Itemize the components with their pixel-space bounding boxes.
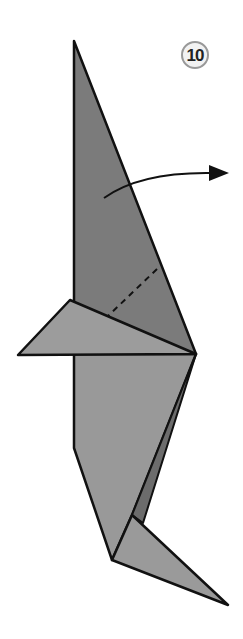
foot-flap — [112, 515, 228, 605]
origami-diagram: 10 — [0, 0, 243, 639]
step-number-badge: 10 — [182, 42, 208, 68]
arrow-head-icon — [209, 165, 229, 181]
upper-body-panel — [74, 41, 196, 354]
step-number: 10 — [187, 46, 204, 65]
